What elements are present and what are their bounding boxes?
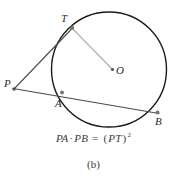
label-point-p: P	[3, 77, 11, 89]
label-point-o: O	[116, 64, 124, 76]
point-marker-t	[70, 26, 74, 30]
point-marker-o	[111, 68, 114, 71]
circle-shape	[52, 12, 167, 127]
radius-segment-TO	[72, 28, 112, 69]
figure-caption: (b)	[0, 158, 187, 170]
geometry-diagram: P T A B O	[0, 0, 187, 178]
tangent-segment-PT	[14, 27, 74, 89]
formula-pb: PB	[74, 132, 88, 144]
formula-pt: PT	[108, 132, 121, 144]
point-marker-a	[60, 91, 64, 95]
formula-text: PA·PB = (PT)2	[0, 132, 187, 144]
geometry-figure: P T A B O PA·PB = (PT)2 (b)	[0, 0, 187, 178]
formula-pa: PA	[56, 132, 68, 144]
point-marker-p	[12, 87, 16, 91]
label-point-b: B	[155, 115, 162, 127]
label-point-a: A	[54, 97, 62, 109]
formula-equals: =	[91, 132, 99, 144]
secant-segment-PB	[13, 89, 159, 114]
label-point-t: T	[61, 12, 68, 24]
formula-exponent: 2	[127, 131, 131, 139]
point-marker-b	[156, 111, 160, 115]
